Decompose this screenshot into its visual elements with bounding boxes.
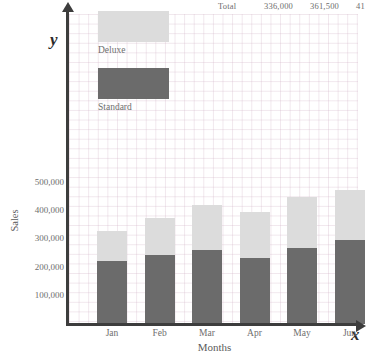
bar-segment-standard[interactable] [145, 255, 175, 324]
bar-may[interactable] [287, 197, 317, 324]
bar-segment-standard[interactable] [335, 240, 365, 324]
bar-segment-standard[interactable] [287, 248, 317, 324]
table-row-label: Total [218, 1, 236, 11]
x-axis-tick-label: Apr [232, 328, 278, 338]
bar-segment-standard[interactable] [192, 250, 222, 324]
bar-jun[interactable] [335, 190, 365, 324]
bar-segment-deluxe[interactable] [240, 212, 270, 258]
x-axis-tick-label: Feb [137, 328, 183, 338]
bar-segment-deluxe[interactable] [145, 218, 175, 255]
bar-segment-standard[interactable] [97, 261, 127, 324]
x-axis-tick-label: Mar [184, 328, 230, 338]
bar-segment-deluxe[interactable] [97, 231, 127, 261]
bar-mar[interactable] [192, 205, 222, 324]
table-row-total-fragment: Total 336,000 361,500 41 [218, 0, 377, 14]
table-cell-value-1: 336,000 [264, 1, 293, 11]
bar-segment-deluxe[interactable] [335, 190, 365, 240]
x-axis-tick-label: May [279, 328, 325, 338]
bar-segment-standard[interactable] [240, 258, 270, 324]
x-axis-tick-label: Jan [89, 328, 135, 338]
x-axis-title: Months [0, 341, 377, 353]
y-axis-title: Sales [9, 191, 20, 251]
chart-figure: Total 336,000 361,500 41 100,000200,0003… [0, 0, 377, 357]
x-axis-tick-label: Jun [327, 328, 373, 338]
bar-jan[interactable] [97, 231, 127, 324]
y-axis-letter: y [50, 30, 58, 50]
bar-apr[interactable] [240, 212, 270, 324]
x-axis-line [66, 323, 357, 326]
y-axis-tick-labels: 100,000200,000300,000400,000500,000 [0, 0, 64, 357]
bar-feb[interactable] [145, 218, 175, 324]
y-axis-line [66, 10, 69, 326]
y-axis-arrow [62, 2, 74, 12]
bar-segment-deluxe[interactable] [287, 197, 317, 248]
y-axis-tick-label: 200,000 [2, 262, 64, 272]
y-axis-tick-label: 100,000 [2, 290, 64, 300]
table-cell-value-3: 41 [356, 1, 365, 11]
x-axis-title-text: Months [198, 341, 232, 353]
bar-series-group [69, 14, 358, 324]
y-axis-tick-label: 500,000 [2, 177, 64, 187]
plot-area: Deluxe Standard [69, 14, 358, 324]
bar-segment-deluxe[interactable] [192, 205, 222, 250]
table-cell-value-2: 361,500 [310, 1, 339, 11]
